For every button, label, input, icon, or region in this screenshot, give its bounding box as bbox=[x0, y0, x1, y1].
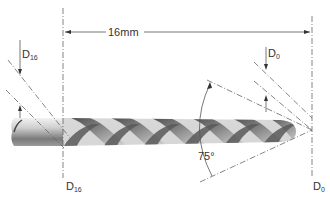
d0-top-marker: D0 bbox=[264, 47, 280, 70]
arrow-down-icon bbox=[18, 69, 22, 75]
d16-top-marker: D16 bbox=[18, 40, 38, 75]
d0-lower-marker bbox=[264, 95, 268, 112]
svg-text:D16: D16 bbox=[22, 48, 38, 61]
construction-lines bbox=[6, 8, 312, 182]
arrow-left-icon bbox=[65, 30, 71, 34]
length-dimension: 16mm bbox=[65, 26, 310, 38]
drill-flutes bbox=[60, 115, 300, 149]
d0-bottom-label: D0 bbox=[313, 180, 325, 193]
arrow-down-icon bbox=[264, 64, 268, 70]
d0-taper-line-top bbox=[254, 62, 312, 118]
drill-diagram: 16mm D16 D16 D0 D0 75° bbox=[0, 0, 330, 198]
d16-lower-marker bbox=[18, 105, 22, 118]
angle-label: 75° bbox=[198, 150, 215, 162]
length-label: 16mm bbox=[108, 26, 139, 38]
arrow-up-icon bbox=[264, 95, 268, 101]
svg-text:D0: D0 bbox=[268, 47, 280, 60]
arrow-up-icon bbox=[207, 82, 212, 89]
d16-bottom-label: D16 bbox=[66, 180, 82, 193]
arrow-right-icon bbox=[304, 30, 310, 34]
